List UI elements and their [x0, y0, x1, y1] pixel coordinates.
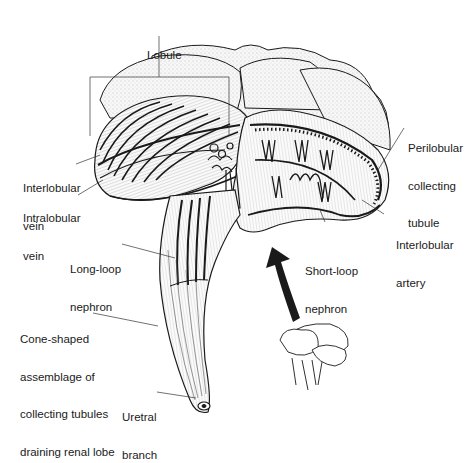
label-line: artery: [396, 277, 454, 290]
label-line: Interlobular: [396, 239, 454, 252]
cone-papilla: [160, 190, 240, 413]
label-line: draining renal lobe: [20, 446, 115, 459]
label-interlobular-artery: Interlobular artery: [396, 214, 454, 314]
label-uretral-branch: Uretral branch: [122, 386, 157, 463]
label-line: assemblage of: [20, 371, 115, 384]
label-line: collecting tubules: [20, 408, 115, 421]
label-line: Intralobular: [23, 212, 81, 225]
label-cone-shaped-assemblage: Cone-shaped assemblage of collecting tub…: [20, 308, 115, 463]
label-line: collecting: [408, 180, 463, 193]
label-line: Uretral: [122, 411, 157, 424]
label-line: Cone-shaped: [20, 333, 115, 346]
label-lobule-line1: Lobule: [147, 49, 182, 62]
curved-arrow-icon: [266, 247, 300, 322]
label-line: Short-loop: [305, 265, 358, 278]
label-line: Perilobular: [408, 142, 463, 155]
label-lobule: Lobule: [147, 24, 182, 87]
label-line: nephron: [305, 303, 358, 316]
label-short-loop-nephron: Short-loop nephron: [305, 240, 358, 340]
label-line: branch: [122, 449, 157, 462]
label-line: Long-loop: [70, 263, 121, 276]
